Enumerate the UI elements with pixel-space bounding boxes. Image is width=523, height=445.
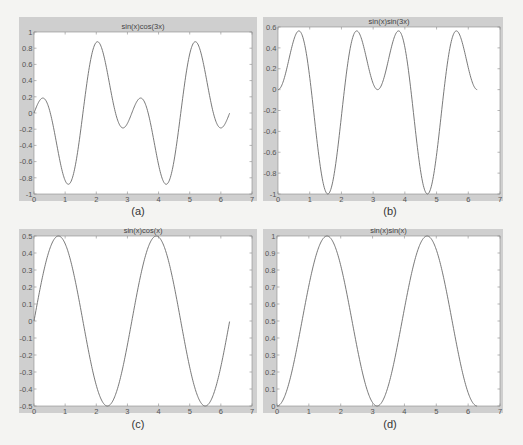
y-tick-label: 0: [272, 85, 276, 94]
y-tick-label: -0.1: [20, 334, 33, 343]
x-tick-label: 1: [63, 407, 67, 416]
x-tick-label: 3: [371, 195, 375, 204]
y-tick-label: 0.3: [265, 351, 275, 360]
plot-area: [34, 236, 252, 406]
y-tick-label: 0: [28, 109, 32, 118]
y-tick-label: -0.2: [20, 125, 33, 134]
y-tick-label: 0.6: [266, 23, 276, 32]
y-tick-label: -0.4: [20, 385, 33, 394]
x-tick-label: 2: [339, 407, 343, 416]
plot-area: [34, 32, 252, 194]
y-tick-label: 0.2: [22, 283, 32, 292]
x-tick-label: 0: [32, 195, 36, 204]
y-tick-label: 0: [28, 317, 32, 326]
subplot-title: sin(x)cos(3x): [122, 22, 165, 31]
y-tick-label: -0.5: [20, 402, 33, 411]
y-tick-label: 0.5: [265, 317, 275, 326]
plot-area: [278, 27, 500, 194]
x-tick-label: 4: [156, 195, 160, 204]
x-tick-label: 3: [370, 407, 374, 416]
subplot-caption: (d): [383, 418, 396, 430]
y-tick-label: 0.4: [22, 249, 32, 258]
y-tick-label: 0.2: [265, 368, 275, 377]
subplot-caption: (a): [131, 205, 144, 217]
x-tick-label: 4: [156, 407, 160, 416]
y-tick-label: 1: [271, 232, 275, 241]
y-tick-label: 0.3: [22, 266, 32, 275]
subplot-title: sin(x)sin(3x): [369, 17, 410, 26]
subplot-title: sin(x)cos(x): [124, 226, 163, 235]
y-tick-label: -0.4: [20, 141, 33, 150]
x-tick-label: 3: [125, 407, 129, 416]
y-tick-label: 0.7: [265, 283, 275, 292]
subplot-title: sin(x)sin(x): [370, 226, 407, 235]
y-tick-label: 0.8: [22, 44, 32, 53]
x-tick-label: 5: [434, 195, 438, 204]
x-tick-label: 4: [402, 407, 406, 416]
x-tick-label: 5: [188, 407, 192, 416]
y-tick-label: 0.4: [265, 334, 275, 343]
y-tick-label: 1: [28, 28, 32, 37]
x-tick-label: 0: [275, 407, 279, 416]
x-tick-label: 7: [498, 407, 502, 416]
y-tick-label: 0.9: [265, 249, 275, 258]
y-tick-label: 0.6: [22, 60, 32, 69]
y-tick-label: 0.6: [265, 300, 275, 309]
x-tick-label: 0: [276, 195, 280, 204]
y-tick-label: -0.2: [264, 106, 277, 115]
x-tick-label: 1: [63, 195, 67, 204]
x-tick-label: 2: [94, 195, 98, 204]
y-tick-label: 0.4: [266, 44, 276, 53]
x-tick-label: 5: [188, 195, 192, 204]
x-tick-label: 7: [498, 195, 502, 204]
x-tick-label: 6: [219, 195, 223, 204]
y-tick-label: -0.4: [264, 127, 277, 136]
plot-area: [277, 236, 500, 406]
x-tick-label: 6: [466, 407, 470, 416]
subplot-a: sin(x)cos(3x)01234567-1-0.8-0.6-0.4-0.20…: [19, 17, 257, 217]
x-tick-label: 6: [466, 195, 470, 204]
x-tick-label: 5: [434, 407, 438, 416]
x-tick-label: 4: [403, 195, 407, 204]
y-tick-label: -0.8: [264, 169, 277, 178]
y-tick-label: -1: [26, 190, 33, 199]
x-tick-label: 2: [94, 407, 98, 416]
y-tick-label: -1: [270, 190, 277, 199]
subplot-b: sin(x)sin(3x)01234567-1-0.8-0.6-0.4-0.20…: [263, 17, 503, 217]
y-tick-label: -0.6: [20, 157, 33, 166]
subplot-d: sin(x)sin(x)0123456700.10.20.30.40.50.60…: [263, 226, 503, 430]
y-tick-label: 0.2: [22, 93, 32, 102]
x-tick-label: 1: [307, 407, 311, 416]
y-tick-label: 0: [271, 402, 275, 411]
y-tick-label: 0.2: [266, 64, 276, 73]
subplot-c: sin(x)cos(x)01234567-0.5-0.4-0.3-0.2-0.1…: [19, 226, 257, 430]
figure-2x2-subplots: sin(x)cos(3x)01234567-1-0.8-0.6-0.4-0.20…: [0, 0, 523, 445]
x-tick-label: 2: [339, 195, 343, 204]
y-tick-label: -0.6: [264, 148, 277, 157]
x-tick-label: 0: [32, 407, 36, 416]
x-tick-label: 6: [219, 407, 223, 416]
y-tick-label: -0.3: [20, 368, 33, 377]
y-tick-label: 0.8: [265, 266, 275, 275]
subplot-caption: (b): [383, 205, 396, 217]
x-tick-label: 7: [250, 195, 254, 204]
y-tick-label: -0.2: [20, 351, 33, 360]
x-tick-label: 3: [125, 195, 129, 204]
subplot-caption: (c): [132, 418, 145, 430]
y-tick-label: -0.8: [20, 174, 33, 183]
y-tick-label: 0.4: [22, 76, 32, 85]
y-tick-label: 0.1: [265, 385, 275, 394]
y-tick-label: 0.5: [22, 232, 32, 241]
y-tick-label: 0.1: [22, 300, 32, 309]
x-tick-label: 7: [250, 407, 254, 416]
x-tick-label: 1: [308, 195, 312, 204]
